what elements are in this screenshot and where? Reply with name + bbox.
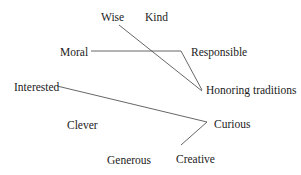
line-wise-to-honoring-traditions <box>119 25 202 91</box>
diagram-canvas: Wise Kind Moral Responsible Interested H… <box>0 0 301 175</box>
label-wise: Wise <box>101 12 124 24</box>
label-creative: Creative <box>176 154 215 166</box>
label-responsible: Responsible <box>191 47 247 59</box>
label-kind: Kind <box>145 12 168 24</box>
label-generous: Generous <box>107 155 151 167</box>
line-interested-curious-creative <box>57 86 207 145</box>
label-moral: Moral <box>60 47 88 59</box>
line-moral-responsible-honoring-traditions <box>91 51 202 90</box>
label-clever: Clever <box>67 120 98 132</box>
label-honoring-traditions: Honoring traditions <box>206 85 296 97</box>
label-curious: Curious <box>214 119 250 131</box>
label-interested: Interested <box>14 82 59 94</box>
